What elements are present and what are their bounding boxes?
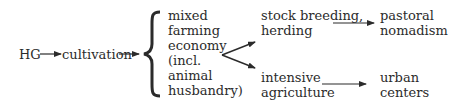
node-mixed-farming-economy: mixed farming economy (incl. animal husb…	[168, 8, 243, 98]
node-line: economy	[168, 38, 243, 53]
node-cultivation: cultivation	[62, 47, 132, 62]
node-line: urban	[380, 70, 429, 85]
node-line: pastoral	[380, 8, 448, 23]
node-pastoral-nomadism: pastoral nomadism	[380, 8, 448, 38]
node-line: nomadism	[380, 23, 448, 38]
node-hg: HG	[19, 47, 41, 62]
node-line: farming	[168, 23, 243, 38]
node-line: (incl.	[168, 53, 243, 68]
brace-icon	[144, 12, 160, 96]
node-line: mixed	[168, 8, 243, 23]
node-line: agriculture	[261, 85, 335, 100]
node-intensive-agriculture: intensive agriculture	[261, 70, 335, 100]
node-line: herding	[261, 23, 363, 38]
node-line: husbandry)	[168, 83, 243, 98]
node-urban-centers: urban centers	[380, 70, 429, 100]
node-line: animal	[168, 68, 243, 83]
node-line: stock breeding,	[261, 8, 363, 23]
node-line: centers	[380, 85, 429, 100]
node-stock-breeding: stock breeding, herding	[261, 8, 363, 38]
node-line: intensive	[261, 70, 335, 85]
